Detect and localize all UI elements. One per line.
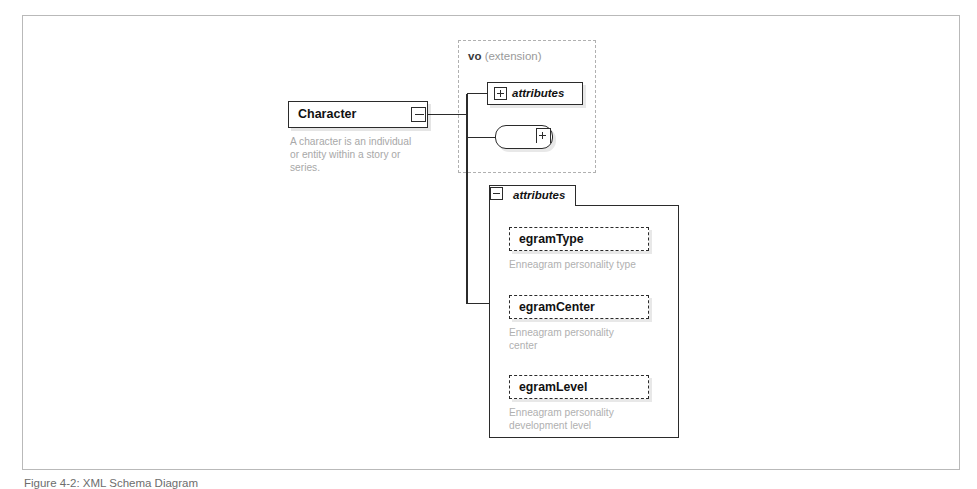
attribute-description: Enneagram personality type bbox=[509, 258, 649, 271]
element-node-character[interactable]: Character bbox=[288, 101, 428, 128]
attribute-name: egramCenter bbox=[519, 300, 595, 314]
minus-icon bbox=[415, 114, 424, 115]
attributes-panel: attributes egramType Enneagram personali… bbox=[489, 185, 679, 438]
character-collapse-toggle[interactable] bbox=[411, 107, 426, 122]
collapse-minus-icon[interactable] bbox=[490, 187, 503, 200]
sequence-expand-toggle[interactable] bbox=[536, 128, 551, 143]
expand-plus-icon bbox=[537, 130, 550, 143]
attributes-node-label: attributes bbox=[512, 87, 564, 99]
expand-plus-icon[interactable] bbox=[494, 87, 507, 100]
attribute-name: egramLevel bbox=[519, 380, 587, 394]
extension-group-name: vo bbox=[468, 50, 481, 62]
character-label: Character bbox=[298, 107, 356, 121]
attribute-name: egramType bbox=[519, 232, 584, 246]
attribute-chip[interactable]: egramCenter bbox=[509, 295, 649, 319]
attribute-row[interactable]: egramType Enneagram personality type bbox=[509, 227, 649, 271]
attribute-chip[interactable]: egramLevel bbox=[509, 375, 649, 399]
attribute-row[interactable]: egramLevel Enneagram personality develop… bbox=[509, 375, 649, 432]
character-box[interactable]: Character bbox=[288, 101, 428, 128]
attribute-description: Enneagram personality center bbox=[509, 326, 649, 352]
attributes-panel-tab[interactable]: attributes bbox=[489, 185, 576, 206]
figure-caption: Figure 4-2: XML Schema Diagram bbox=[24, 477, 198, 489]
character-description: A character is an individual or entity w… bbox=[290, 135, 422, 175]
attribute-chip[interactable]: egramType bbox=[509, 227, 649, 251]
extension-group-kind-text: (extension) bbox=[485, 50, 542, 62]
extension-group-label: vo (extension) bbox=[468, 50, 542, 62]
attributes-node-collapsed[interactable]: attributes bbox=[487, 82, 583, 105]
attribute-row[interactable]: egramCenter Enneagram personality center bbox=[509, 295, 649, 352]
attribute-description: Enneagram personality development level bbox=[509, 406, 649, 432]
attributes-panel-label: attributes bbox=[513, 189, 565, 201]
